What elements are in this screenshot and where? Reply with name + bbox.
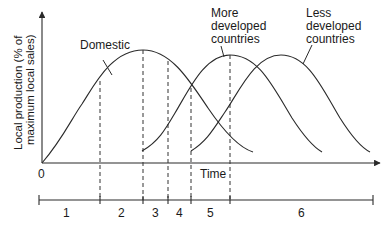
diagram-canvas: Domestic More developed countries Less d…	[0, 0, 387, 226]
stage-label-2: 2	[118, 206, 125, 220]
domestic-curve	[42, 50, 253, 163]
stage-label-1: 1	[63, 206, 70, 220]
more-developed-leader	[221, 46, 224, 57]
less-developed-label-1: Less	[306, 6, 331, 20]
more-developed-label-3: countries	[211, 32, 260, 46]
domestic-leader	[103, 60, 112, 75]
less-developed-leader	[303, 45, 312, 64]
stage-label-4: 4	[176, 206, 183, 220]
y-axis-label-line2: maximum local sales)	[24, 34, 36, 145]
stage-label-3: 3	[152, 206, 159, 220]
stage-label-6: 6	[298, 206, 305, 220]
x-axis-label: Time	[200, 167, 227, 181]
domestic-label: Domestic	[80, 38, 130, 52]
more-developed-label-1: More	[211, 6, 239, 20]
less-developed-label-3: countries	[306, 32, 355, 46]
stage-label-5: 5	[207, 206, 214, 220]
less-developed-label-2: developed	[306, 19, 361, 33]
more-developed-label-2: developed	[211, 19, 266, 33]
origin-label: 0	[38, 167, 45, 181]
less-developed-curve	[191, 55, 370, 152]
y-axis-label-line1: Local production (% of	[12, 35, 24, 150]
